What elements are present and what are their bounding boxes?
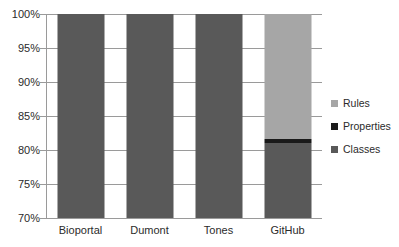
bar-group[interactable] bbox=[184, 14, 253, 218]
bar-group[interactable] bbox=[46, 14, 115, 218]
bar-series-container bbox=[46, 14, 322, 218]
legend-swatch-icon bbox=[331, 100, 338, 107]
bar-group[interactable] bbox=[115, 14, 184, 218]
bar-segment-classes[interactable] bbox=[195, 14, 242, 218]
legend-item[interactable]: Properties bbox=[331, 115, 399, 138]
x-axis-category-label: Tones bbox=[184, 224, 253, 236]
legend-item[interactable]: Classes bbox=[331, 138, 399, 161]
y-axis-tick-label: 85% bbox=[0, 111, 40, 122]
bar-stack[interactable] bbox=[195, 14, 242, 218]
bar-segment-classes[interactable] bbox=[264, 143, 311, 218]
legend-label: Classes bbox=[343, 144, 380, 155]
legend-item[interactable]: Rules bbox=[331, 92, 399, 115]
x-axis-category-label: GitHub bbox=[253, 224, 322, 236]
legend-swatch-icon bbox=[331, 123, 338, 130]
chart-legend: RulesPropertiesClasses bbox=[331, 92, 399, 161]
x-axis-labels: BioportalDumontTonesGitHub bbox=[46, 224, 322, 244]
legend-label: Rules bbox=[343, 98, 370, 109]
bar-segment-classes[interactable] bbox=[126, 14, 173, 218]
x-axis-category-label: Dumont bbox=[115, 224, 184, 236]
plot-area bbox=[46, 14, 322, 218]
legend-swatch-icon bbox=[331, 146, 338, 153]
legend-label: Properties bbox=[343, 121, 391, 132]
bar-group[interactable] bbox=[253, 14, 322, 218]
y-axis-tick-label: 90% bbox=[0, 77, 40, 88]
y-axis-tick-label: 80% bbox=[0, 145, 40, 156]
gridline bbox=[46, 218, 322, 219]
y-axis-labels: 100%95%90%85%80%75%70% bbox=[0, 0, 40, 247]
bar-stack[interactable] bbox=[126, 14, 173, 218]
bar-segment-rules[interactable] bbox=[264, 14, 311, 139]
y-axis-tick-label: 95% bbox=[0, 43, 40, 54]
y-axis-tick-label: 75% bbox=[0, 179, 40, 190]
stacked-bar-chart: 100%95%90%85%80%75%70% BioportalDumontTo… bbox=[0, 0, 399, 247]
y-axis-tick-label: 70% bbox=[0, 213, 40, 224]
y-axis-tick-label: 100% bbox=[0, 9, 40, 20]
bar-segment-classes[interactable] bbox=[57, 14, 104, 218]
bar-stack[interactable] bbox=[57, 14, 104, 218]
x-axis-category-label: Bioportal bbox=[46, 224, 115, 236]
bar-stack[interactable] bbox=[264, 14, 311, 218]
